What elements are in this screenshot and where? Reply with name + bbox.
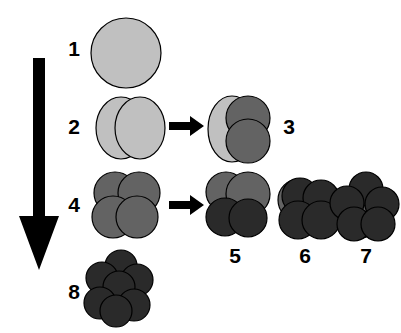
particle-sphere [116,196,158,238]
particle-sphere [226,119,270,163]
particle-sphere [100,295,132,327]
particle-cluster-stage-1 [88,14,164,92]
stage-label-2: 2 [63,116,85,137]
stage-label-6: 6 [294,245,316,266]
particle-cluster-stage-3 [206,95,274,165]
particle-cluster-stage-5 [204,172,274,242]
stage-label-1: 1 [63,38,85,59]
particle-cluster-stage-7 [330,172,400,242]
arrow-4-to-5-icon [169,194,205,216]
stage-label-7: 7 [355,245,377,266]
stage-label-5: 5 [224,245,246,266]
stage-label-4: 4 [63,194,85,215]
particle-sphere [91,18,161,88]
particle-sphere [115,97,165,159]
particle-cluster-stage-8 [84,253,154,329]
downward-progression-arrow [14,56,64,274]
particle-aggregation-diagram: 1 2 3 4 5 [0,0,401,333]
particle-sphere [229,199,267,237]
stage-label-8: 8 [63,281,85,302]
particle-sphere [361,207,395,241]
particle-cluster-stage-2 [94,95,166,161]
arrow-2-to-3-icon [169,115,205,137]
particle-cluster-stage-4 [92,172,164,242]
stage-label-3: 3 [278,116,300,137]
